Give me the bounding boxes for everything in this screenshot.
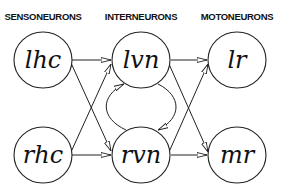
node-rvn: rvn	[112, 127, 170, 183]
column-label-motoneurons: MOTONEURONS	[201, 11, 274, 22]
column-label-interneurons: INTERNEURONS	[105, 11, 177, 22]
node-rhc: rhc	[14, 127, 72, 183]
node-lr: lr	[208, 32, 266, 88]
node-label-lr: lr	[227, 46, 248, 74]
node-lhc: lhc	[14, 32, 72, 88]
edge-rvn-lvn	[106, 84, 126, 130]
node-mr: mr	[208, 127, 266, 183]
node-lvn: lvn	[112, 32, 170, 88]
node-label-lvn: lvn	[123, 46, 160, 74]
node-label-rvn: rvn	[121, 141, 162, 169]
node-label-lhc: lhc	[25, 46, 62, 74]
node-label-rhc: rhc	[23, 141, 63, 169]
neural-network-diagram: SENSONEURONS INTERNEURONS MOTONEURONS lh…	[0, 0, 281, 191]
edge-lvn-rvn	[158, 84, 176, 130]
column-label-sensoneurons: SENSONEURONS	[4, 11, 81, 22]
node-label-mr: mr	[220, 141, 256, 169]
